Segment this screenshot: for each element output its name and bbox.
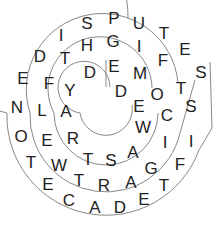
letter-cell: F: [170, 155, 190, 175]
letter-cell: O: [11, 127, 31, 147]
letter-cell: M: [130, 64, 150, 84]
letter-cell: S: [181, 97, 201, 117]
letter-cell: W: [49, 156, 69, 176]
letter-cell: A: [85, 198, 105, 218]
letter-cell: I: [51, 26, 71, 46]
letter-cell: E: [37, 131, 57, 151]
letter-cell: R: [63, 129, 83, 149]
letter-cell: C: [157, 106, 177, 126]
letter-cell: F: [153, 51, 173, 71]
letter-cell: I: [155, 133, 175, 153]
letter-cell: P: [104, 9, 124, 29]
letter-cell: T: [69, 171, 89, 191]
spiral-puzzle: DISPUTESENOTECADETFISTHGIFTCIGARTWELFYDE…: [0, 0, 223, 227]
letter-cell: E: [104, 57, 124, 77]
letter-cell: F: [39, 74, 59, 94]
letter-cell: U: [129, 14, 149, 34]
letter-cell: S: [77, 14, 97, 34]
letter-cell: T: [55, 49, 75, 69]
letter-cell: S: [101, 151, 121, 171]
letter-cell: O: [147, 85, 167, 105]
letter-cell: G: [141, 159, 161, 179]
letter-cell: Y: [60, 81, 80, 101]
letter-cell: E: [134, 190, 154, 210]
letter-cell: A: [121, 173, 141, 193]
letter-cell: T: [154, 176, 174, 196]
letter-cell: C: [59, 191, 79, 211]
letter-cell: R: [94, 176, 114, 196]
letter-cell: S: [191, 63, 211, 83]
letter-cell: D: [111, 82, 131, 102]
letter-cell: I: [129, 37, 149, 57]
letter-cell: N: [7, 98, 27, 118]
letter-cell: E: [13, 69, 33, 89]
letter-cell: L: [32, 101, 52, 121]
letter-cell: A: [56, 102, 76, 122]
letter-cell: T: [154, 24, 174, 44]
letter-cell: E: [38, 175, 58, 195]
letter-cell: H: [77, 36, 97, 56]
letter-cell: D: [110, 198, 130, 218]
letter-cell: T: [171, 79, 191, 99]
letter-cell: D: [30, 47, 50, 67]
letter-cell: D: [80, 63, 100, 83]
letter-cell: T: [78, 150, 98, 170]
letter-cell: A: [123, 143, 143, 163]
letter-cell: E: [129, 97, 149, 117]
letter-cell: I: [181, 132, 201, 152]
letter-cell: W: [133, 118, 153, 138]
letter-cell: T: [21, 153, 41, 173]
letter-cell: E: [175, 40, 195, 60]
letter-cell: G: [103, 32, 123, 52]
